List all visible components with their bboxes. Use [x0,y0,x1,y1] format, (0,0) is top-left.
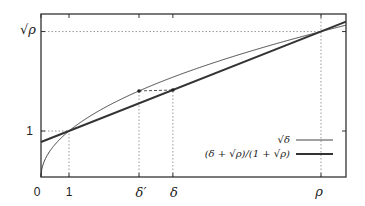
series-line [41,22,346,142]
y-tick-label-1: 1 [26,124,33,138]
plot-frame [41,14,346,177]
x-tick-label-1: 1 [66,185,73,199]
marker-delta-prime [137,89,141,93]
tick-marks [41,14,346,177]
x-tick-label-0: 0 [34,185,41,199]
marker-delta [171,88,175,92]
legend-label-line: (δ + √ρ)/(1 + √ρ) [205,148,290,159]
chart: 0 1 δ′ δ ρ 1 √ρ √δ (δ + √ρ)/(1 + √ρ) [0,0,365,206]
y-tick-label-sqrt-rho: √ρ [20,22,36,37]
legend-label-sqrt-delta: √δ [278,134,290,145]
x-tick-label-rho: ρ [314,184,323,199]
x-tick-label-delta-prime: δ′ [136,185,147,200]
x-tick-label-delta: δ [170,185,178,200]
legend: √δ (δ + √ρ)/(1 + √ρ) [205,134,333,159]
connector-delta-prime-delta [139,90,173,91]
